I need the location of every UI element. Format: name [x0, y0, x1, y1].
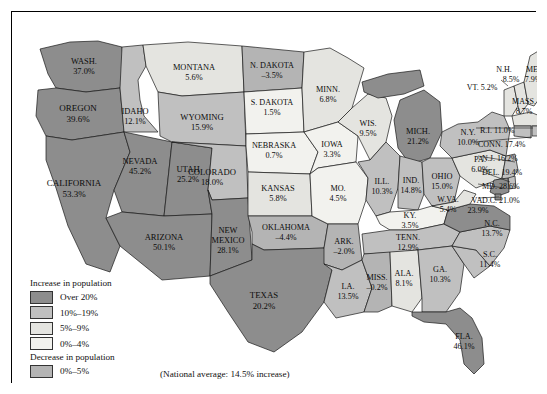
- label-MT-name: MONTANA: [173, 63, 215, 72]
- label-WI-name: WIS.: [359, 119, 376, 128]
- label-MI-value: 21.2%: [407, 137, 429, 146]
- label-NE-value: 0.7%: [265, 151, 282, 160]
- label-NC-value: 13.7%: [481, 229, 502, 238]
- state-RI[interactable]: [532, 126, 537, 136]
- legend-swatch-5-9: [30, 322, 53, 335]
- label-MA-value: 8.7%: [516, 107, 533, 116]
- label-ND-name: N. DAKOTA: [250, 61, 294, 70]
- label-OH-name: OHIO: [432, 172, 453, 181]
- label-WY-value: 15.9%: [191, 122, 213, 132]
- label-KS-value: 5.8%: [269, 194, 286, 203]
- label-ND-value: –3.5%: [260, 71, 282, 80]
- label-AL-name: ALA.: [395, 269, 414, 278]
- label-NY-name: N.Y.: [460, 128, 475, 137]
- label-ME-name: ME.: [526, 65, 537, 74]
- label-KY-value: 3.5%: [401, 221, 418, 230]
- map-legend: Increase in population Over 20% 10%–19% …: [30, 278, 200, 382]
- label-MO-value: 4.5%: [329, 194, 346, 203]
- label-LA-name: LA.: [342, 282, 355, 291]
- label-TN-value: 12.9%: [397, 243, 418, 252]
- label-IA-value: 3.3%: [323, 150, 340, 159]
- legend-label-5-9: 5%–9%: [60, 323, 89, 333]
- legend-item-10-19[interactable]: 10%–19%: [30, 306, 200, 320]
- label-NC-name: N.C.: [484, 219, 499, 228]
- label-NM-name1: NEW: [218, 226, 237, 235]
- label-MD: MD. 28.6%: [482, 182, 520, 191]
- label-OK-value: –4.4%: [274, 233, 296, 242]
- label-SC-value: 11.4%: [480, 260, 501, 269]
- label-NH-value: 8.5%: [503, 75, 520, 84]
- label-FL-value: 46.1%: [453, 342, 474, 351]
- label-TX-value: 20.2%: [253, 301, 276, 311]
- label-ID-value: 12.1%: [124, 117, 146, 126]
- label-ID-name: IDAHO: [122, 107, 149, 116]
- label-RI: R.I. 11.0%: [480, 126, 515, 135]
- map-frame: WASH. 37.0% OREGON 39.6% IDAHO 12.1% CAL…: [11, 11, 536, 383]
- label-MS-name: MISS.: [366, 273, 387, 282]
- label-VA-value: 23.9%: [467, 206, 488, 215]
- label-AZ-value: 50.1%: [153, 242, 175, 252]
- label-WI-value: 9.5%: [359, 129, 376, 138]
- label-FL-name: FLA.: [455, 332, 473, 341]
- label-OR-name: OREGON: [59, 103, 97, 113]
- label-OH-value: 15.0%: [431, 182, 453, 191]
- label-SC-name: S.C.: [483, 250, 497, 259]
- label-VT: VT. 5.2%: [467, 83, 498, 92]
- label-WY-name: WYOMING: [180, 112, 223, 122]
- label-AR-value: –2.0%: [332, 247, 354, 256]
- label-OK-name: OKLAHOMA: [262, 223, 310, 232]
- label-IL-value: 10.3%: [371, 187, 392, 196]
- legend-item-over20[interactable]: Over 20%: [30, 290, 200, 304]
- label-NM-value: 28.1%: [217, 246, 239, 255]
- label-WV-name: W.VA.: [437, 195, 458, 204]
- label-GA-value: 10.3%: [429, 275, 450, 284]
- label-MO-name: MO.: [330, 184, 345, 193]
- legend-label-over20: Over 20%: [60, 292, 98, 302]
- label-MI-name: MICH.: [406, 127, 430, 136]
- label-IL-name: ILL.: [375, 177, 390, 186]
- label-WA-value: 37.0%: [73, 67, 95, 76]
- label-NH-name: N.H.: [496, 65, 512, 74]
- label-MA-name: MASS.: [512, 97, 536, 106]
- label-IA-name: IOWA: [321, 140, 342, 149]
- label-KY-name: KY.: [404, 211, 417, 220]
- label-MS-value: –0.2%: [365, 283, 387, 292]
- label-GA-name: GA.: [433, 265, 447, 274]
- legend-swatch-decrease: [30, 365, 53, 378]
- label-NY-value: 10.0%: [457, 138, 479, 147]
- label-SD-name: S. DAKOTA: [251, 98, 294, 107]
- legend-decrease-title: Decrease in population: [30, 352, 200, 362]
- label-NM-name2: MEXICO: [211, 236, 244, 245]
- label-DC: D.C. 21.0%: [482, 196, 520, 205]
- legend-increase-title: Increase in population: [30, 278, 200, 288]
- legend-swatch-10-19: [30, 306, 53, 319]
- label-MN-name: MINN.: [316, 85, 340, 94]
- label-AL-value: 8.1%: [395, 279, 412, 288]
- label-MN-value: 6.8%: [319, 95, 336, 104]
- label-NV-value: 45.2%: [129, 166, 151, 176]
- label-DE: DEL. 19.4%: [482, 168, 523, 177]
- label-CA-value: 53.3%: [62, 189, 86, 199]
- label-TX-name: TEXAS: [250, 290, 278, 300]
- legend-swatch-over20: [30, 291, 53, 304]
- label-SD-value: 1.5%: [263, 108, 280, 117]
- label-CA-name: CALIFORNIA: [47, 178, 102, 188]
- label-IN-value: 14.8%: [400, 186, 421, 195]
- legend-item-0-4[interactable]: 0%–4%: [30, 337, 200, 351]
- legend-item-5-9[interactable]: 5%–9%: [30, 321, 200, 335]
- label-ME-value: 7.9%: [525, 75, 537, 84]
- label-AZ-name: ARIZONA: [145, 232, 184, 242]
- national-average-note: (National average: 14.5% increase): [160, 369, 290, 379]
- label-CO-name: COLORADO: [188, 167, 236, 177]
- label-NV-name: NEVADA: [122, 156, 158, 166]
- label-TN-name: TENN.: [396, 233, 420, 242]
- legend-swatch-0-4: [30, 337, 53, 350]
- label-AR-name: ARK.: [334, 237, 353, 246]
- label-NE-name: NEBRASKA: [252, 141, 296, 150]
- label-LA-value: 13.5%: [337, 292, 358, 301]
- label-OR-value: 39.6%: [66, 114, 90, 124]
- label-KS-name: KANSAS: [261, 184, 295, 193]
- label-MT-value: 5.6%: [185, 73, 202, 82]
- label-WA-name: WASH.: [71, 57, 97, 66]
- label-WV-value: 5.4%: [440, 205, 457, 214]
